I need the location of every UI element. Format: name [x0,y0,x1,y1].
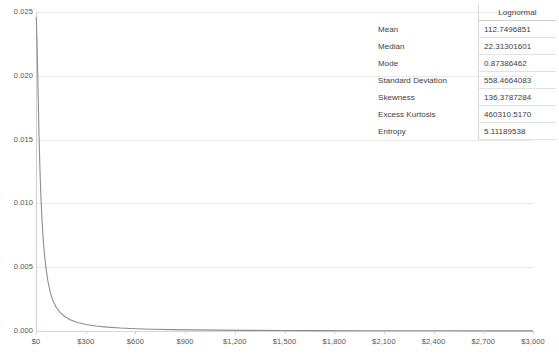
stat-label: Standard Deviation [376,72,478,89]
stat-label: Skewness [376,89,478,106]
stat-value: 22.31301601 [478,38,556,55]
stat-value: 5.11189538 [478,123,556,140]
y-tick-label: 0.015 [1,136,33,144]
x-tick-mark [86,331,87,334]
x-tick-mark [135,331,136,334]
table-row: Entropy5.11189538 [376,123,556,140]
stat-label: Median [376,38,478,55]
stat-value: 558.4664083 [478,72,556,89]
x-tick-label: $300 [77,337,94,346]
table-row: Standard Deviation558.4664083 [376,72,556,89]
stat-value: 112.7496851 [478,21,556,38]
stat-value: 460310.5170 [478,106,556,123]
x-tick-mark [334,331,335,334]
x-tick-label: $0 [32,337,41,346]
x-tick-label: $2,700 [472,337,496,346]
stat-label: Mean [376,21,478,38]
x-tick-mark [483,331,484,334]
x-tick-mark [285,331,286,334]
x-tick-label: $1,500 [273,337,297,346]
table-row: Excess Kurtosis460310.5170 [376,106,556,123]
stat-label: Excess Kurtosis [376,106,478,123]
y-axis-tick-labels: 0.0250.0200.0150.0100.0050.000 [0,0,33,356]
y-tick-label: 0.010 [1,199,33,207]
x-tick-label: $2,400 [422,337,446,346]
x-tick-label: $600 [127,337,144,346]
x-tick-mark [533,331,534,334]
x-tick-mark [434,331,435,334]
x-tick-mark [185,331,186,334]
x-tick-mark [36,331,37,334]
table-header-row: Lognormal [376,4,556,21]
x-axis-tick-labels: $0$300$600$900$1,200$1,500$1,800$2,100$2… [0,337,559,351]
y-tick-label: 0.005 [1,263,33,271]
x-tick-label: $1,200 [223,337,247,346]
y-tick-label: 0.000 [1,327,33,335]
statistics-table: Lognormal Mean112.7496851Median22.313016… [376,4,556,140]
stat-value: 136.3787284 [478,89,556,106]
x-tick-label: $2,100 [372,337,396,346]
y-tick-label: 0.020 [1,72,33,80]
x-tick-mark [384,331,385,334]
table-row: Mode0.87386462 [376,55,556,72]
y-tick-label: 0.025 [1,8,33,16]
table-row: Skewness136.3787284 [376,89,556,106]
table-row: Median22.31301601 [376,38,556,55]
x-tick-label: $3,000 [521,337,545,346]
x-tick-label: $1,800 [322,337,346,346]
table-column-header-lognormal: Lognormal [478,4,556,21]
table-row: Mean112.7496851 [376,21,556,38]
stat-label: Mode [376,55,478,72]
x-tick-label: $900 [177,337,194,346]
x-tick-mark [235,331,236,334]
stat-value: 0.87386462 [478,55,556,72]
stat-label: Entropy [376,123,478,140]
